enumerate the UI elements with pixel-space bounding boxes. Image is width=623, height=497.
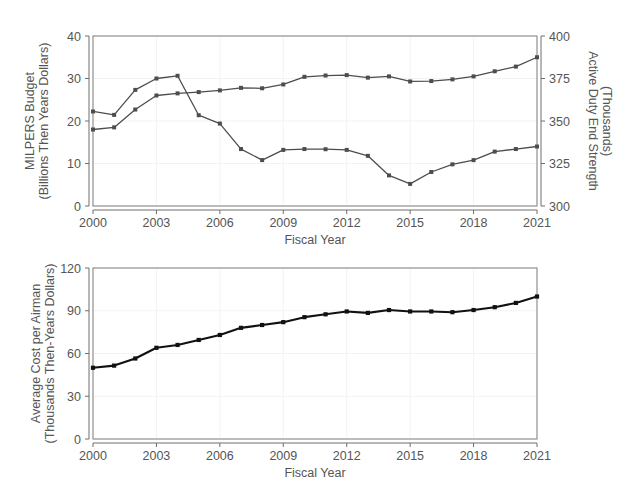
y-ticklabel-left: 120: [60, 262, 81, 276]
data-point: [514, 147, 518, 151]
x-ticklabel: 2015: [396, 216, 424, 230]
data-point: [345, 309, 349, 313]
data-point: [408, 79, 412, 83]
data-point: [387, 74, 391, 78]
data-point: [514, 65, 518, 69]
data-point: [133, 88, 137, 92]
data-point: [197, 90, 201, 94]
data-point: [324, 74, 328, 78]
y-axis-title-right-line1: Active Duty End Strength: [586, 51, 600, 191]
y-ticklabel-right: 350: [549, 115, 570, 129]
data-point: [450, 310, 454, 314]
data-point: [535, 294, 539, 298]
data-point: [408, 309, 412, 313]
data-point: [493, 150, 497, 154]
data-point: [472, 158, 476, 162]
data-point: [323, 312, 327, 316]
x-ticklabel: 2000: [79, 216, 107, 230]
data-point: [175, 343, 179, 347]
y-axis-title-line1: Average Cost per Airman: [29, 284, 43, 423]
y-ticklabel-right: 400: [549, 30, 570, 44]
data-point: [239, 326, 243, 330]
data-point: [281, 320, 285, 324]
data-point: [176, 74, 180, 78]
gridlines: [93, 268, 537, 439]
data-point: [408, 182, 412, 186]
x-axis-title: Fiscal Year: [284, 466, 345, 480]
data-point: [91, 109, 95, 113]
data-point: [239, 147, 243, 151]
y-ticklabel-left: 40: [67, 30, 81, 44]
data-point: [535, 55, 539, 59]
figure-container: 010203040300325350375400Active Duty End …: [0, 0, 623, 497]
series-2: [91, 74, 539, 186]
y-ticklabel-left: 60: [67, 347, 81, 361]
data-point: [302, 315, 306, 319]
data-point: [218, 333, 222, 337]
data-point: [345, 148, 349, 152]
y-ticklabel-left: 90: [67, 304, 81, 318]
data-point: [260, 323, 264, 327]
data-point: [429, 79, 433, 83]
series-1: [91, 294, 539, 369]
data-point: [493, 69, 497, 73]
y-ticklabel-left: 30: [67, 72, 81, 86]
data-point: [302, 75, 306, 79]
data-point: [345, 73, 349, 77]
data-point: [302, 147, 306, 151]
data-point: [514, 301, 518, 305]
series-line: [93, 297, 537, 368]
gridlines: [93, 36, 537, 206]
data-point: [260, 158, 264, 162]
data-point: [112, 125, 116, 129]
x-ticklabel: 2018: [460, 449, 488, 463]
data-point: [429, 170, 433, 174]
x-ticklabel: 2009: [269, 216, 297, 230]
x-ticklabel: 2006: [206, 449, 234, 463]
chart-canvas: 010203040300325350375400Active Duty End …: [0, 0, 623, 497]
data-point: [387, 173, 391, 177]
data-point: [450, 162, 454, 166]
x-ticklabel: 2006: [206, 216, 234, 230]
data-point: [218, 122, 222, 126]
data-point: [218, 88, 222, 92]
y-ticklabel-right: 300: [549, 200, 570, 214]
data-point: [133, 108, 137, 112]
x-ticklabel: 2018: [460, 216, 488, 230]
data-point: [154, 77, 158, 81]
data-point: [281, 148, 285, 152]
y-ticklabel-right: 375: [549, 72, 570, 86]
x-axis-title: Fiscal Year: [284, 233, 345, 247]
x-ticklabel: 2021: [523, 449, 551, 463]
data-point: [197, 113, 201, 117]
data-point: [387, 308, 391, 312]
x-ticklabel: 2003: [143, 449, 171, 463]
data-point: [429, 309, 433, 313]
data-point: [154, 346, 158, 350]
data-point: [366, 154, 370, 158]
data-point: [366, 76, 370, 80]
data-point: [472, 74, 476, 78]
data-point: [471, 308, 475, 312]
y-axis-title-line2: (Billions Then Years Dollars): [37, 43, 51, 200]
data-point: [154, 94, 158, 98]
y-ticklabel-left: 0: [74, 433, 81, 447]
data-point: [366, 311, 370, 315]
series-line: [93, 57, 537, 129]
data-point: [91, 366, 95, 370]
data-point: [197, 338, 201, 342]
x-ticklabel: 2021: [523, 216, 551, 230]
x-ticklabel: 2003: [143, 216, 171, 230]
data-point: [112, 364, 116, 368]
data-point: [91, 128, 95, 132]
data-point: [450, 77, 454, 81]
data-point: [324, 147, 328, 151]
x-ticklabel: 2009: [269, 449, 297, 463]
y-axis-title-line1: MILPERS Budget: [23, 71, 37, 169]
y-ticklabel-left: 20: [67, 115, 81, 129]
series-line: [93, 76, 537, 184]
data-point: [493, 305, 497, 309]
data-point: [176, 91, 180, 95]
y-axis-title-line2: (Thousands Then-Years Dollars): [43, 264, 57, 444]
x-ticklabel: 2000: [79, 449, 107, 463]
